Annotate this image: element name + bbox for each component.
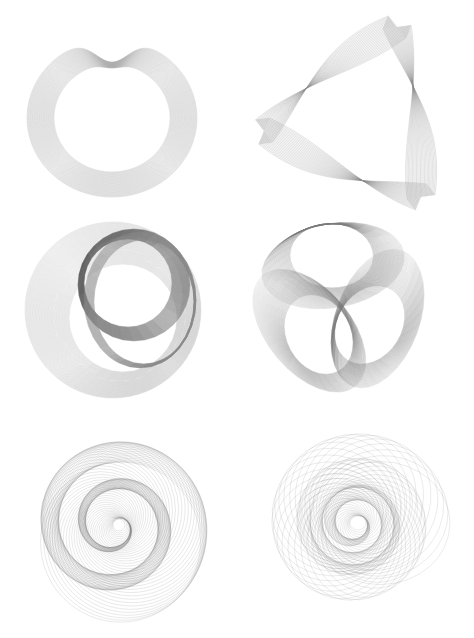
artwork-canvas: [0, 0, 474, 638]
background: [0, 0, 474, 638]
